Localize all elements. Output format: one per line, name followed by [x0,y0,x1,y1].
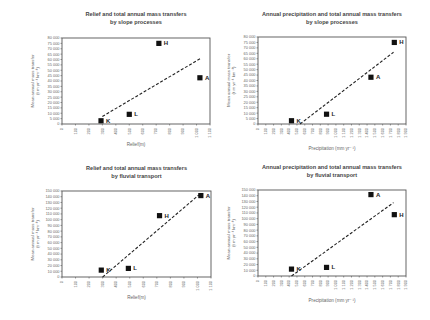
y-tick-label: 55 000 [244,62,257,67]
x-tick-label: 200 [271,127,276,134]
y-tick-label: 25 000 [244,94,257,99]
x-tick-label: 0 [255,279,260,282]
y-tick-label: 75 000 [244,40,257,45]
y-tick-label: 90 000 [244,222,257,227]
data-point-k [289,118,294,123]
y-tick-label: 80 000 [244,228,257,233]
y-tick-label: 15 000 [48,105,61,110]
y-axis-label: Mean annual mass transfer(t m yr⁻¹ km⁻¹) [226,53,236,107]
x-tick-label: 700 [153,127,158,134]
x-tick-label: 900 [325,279,330,286]
y-axis-label: Mean annual mass transfer(t m yr⁻¹ km⁻¹) [226,206,236,260]
y-tick-label: 10 000 [48,269,61,274]
y-tick-label: 30 000 [244,256,257,261]
data-point-h [392,40,397,45]
x-tick-label: 300 [100,127,105,134]
y-tick-label: 150 000 [45,188,60,193]
chart-2: Annual precipitation and total annual ma… [226,11,408,151]
x-tick-label: 200 [86,280,91,287]
x-tick-label: 1 100 [341,279,346,290]
y-tick-label: 25 000 [48,95,61,100]
point-label: K [296,266,301,272]
x-tick-label: 100 [73,127,78,134]
y-tick-label: 120 000 [241,205,256,210]
y-tick-label: 60 000 [48,57,61,62]
x-tick-label: 100 [73,280,78,287]
y-tick-label: 20 000 [48,100,61,105]
x-tick-label: 400 [286,279,291,286]
x-tick-label: 1 000 [194,127,199,138]
x-tick-label: 0 [59,127,64,130]
x-tick-label: 400 [113,280,118,287]
x-tick-label: 900 [180,127,185,134]
x-tick-label: 1 100 [341,127,346,138]
y-tick-label: 40 000 [244,78,257,83]
x-tick-label: 800 [168,280,173,287]
x-tick-label: 1 300 [357,127,362,138]
point-label: L [133,265,137,271]
y-tick-label: 80 000 [244,34,257,39]
chart-1: Relief and total annual mass transfersby… [30,11,212,147]
y-tick-label: 45 000 [244,72,257,77]
x-tick-label: 800 [318,279,323,286]
x-tick-label: 600 [302,127,307,134]
y-tick-label: 10 000 [244,111,257,116]
y-tick-label: 5 000 [246,116,257,121]
x-tick-label: 700 [310,127,315,134]
y-tick-label: 30 000 [48,89,61,94]
x-tick-label: 1 000 [333,127,338,138]
y-tick-label: 140 000 [241,193,256,198]
x-tick-label: 600 [141,280,146,287]
x-tick-label: 0 [59,280,64,283]
y-tick-label: 60 000 [48,240,61,245]
x-axis-label: Precipitation (mm yr⁻¹) [309,298,356,303]
y-tick-label: 55 000 [48,62,61,67]
y-tick-label: 35 000 [244,83,257,88]
y-tick-label: 90 000 [48,223,61,228]
x-tick-label: 700 [310,279,315,286]
point-label: L [332,264,336,270]
x-tick-label: 200 [86,127,91,134]
charts-canvas: Relief and total annual mass transfersby… [0,0,430,320]
y-tick-label: 60 000 [244,239,257,244]
y-tick-label: 40 000 [244,250,257,255]
trend-line [300,52,393,124]
x-tick-label: 600 [302,279,307,286]
trend-line [291,203,393,276]
x-tick-label: 600 [140,127,145,134]
y-tick-label: 80 000 [48,229,61,234]
x-tick-label: 400 [286,127,291,134]
y-tick-label: 30 000 [48,257,61,262]
y-tick-label: 65 000 [48,52,61,57]
trend-line [103,195,199,277]
y-tick-label: 0 [253,121,256,126]
x-tick-label: 1 000 [195,280,200,291]
y-tick-label: 50 000 [244,245,257,250]
y-tick-label: 140 000 [45,194,60,199]
y-tick-label: 35 000 [48,84,61,89]
point-label: H [399,212,403,218]
y-tick-label: 70 000 [244,233,257,238]
data-point-h [392,212,397,217]
x-tick-label: 500 [127,127,132,134]
x-tick-label: 500 [294,279,299,286]
y-tick-label: 100 000 [241,216,256,221]
point-label: H [165,213,169,219]
y-tick-label: 40 000 [48,251,61,256]
x-tick-label: 1 800 [396,279,401,290]
y-tick-label: 50 000 [48,68,61,73]
y-tick-label: 75 000 [48,41,61,46]
y-tick-label: 100 000 [45,217,60,222]
y-tick-label: 65 000 [244,51,257,56]
point-label: A [205,75,210,81]
data-point-a [368,192,373,197]
y-axis-label: Mean annual mass transfer(t m yr⁻¹ km⁻¹) [30,207,40,261]
trend-line [102,58,200,116]
x-tick-label: 1 700 [388,279,393,290]
x-tick-label: 1 900 [403,127,408,138]
data-point-l [127,112,132,117]
x-tick-label: 300 [279,279,284,286]
x-tick-label: 1 400 [364,279,369,290]
x-tick-label: 300 [100,280,105,287]
point-label: H [164,40,168,46]
